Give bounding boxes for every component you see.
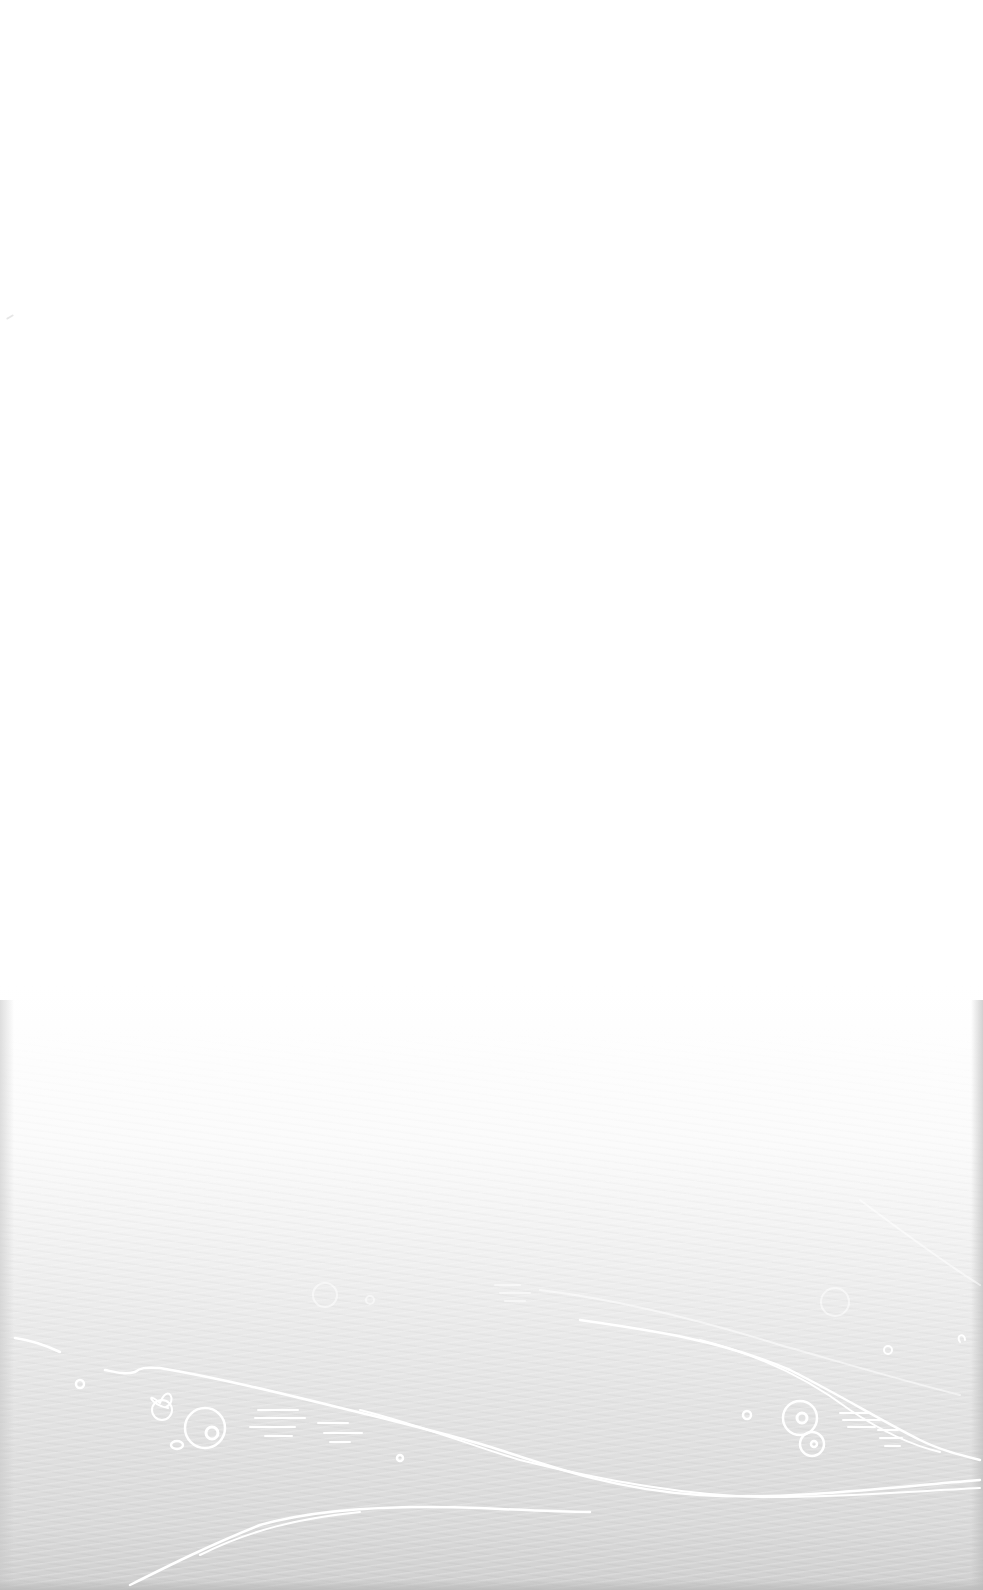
faint-wave-lines bbox=[313, 1200, 980, 1395]
right-wave-line-2 bbox=[700, 1340, 940, 1452]
background-screen bbox=[0, 0, 983, 1590]
bubbles-left bbox=[76, 1380, 403, 1461]
bottom-sweep-line bbox=[130, 1507, 590, 1585]
short-stroke-left bbox=[15, 1338, 60, 1352]
grain-texture bbox=[0, 1020, 983, 1590]
dash-marks-right bbox=[840, 1413, 902, 1446]
main-wave-line-2 bbox=[360, 1410, 980, 1497]
right-wave-line bbox=[580, 1320, 980, 1460]
bottom-sweep-line-2 bbox=[200, 1512, 360, 1555]
edge-shadow-bottom bbox=[0, 1580, 983, 1590]
edge-shadow-left bbox=[0, 1000, 14, 1590]
bubbles-right bbox=[743, 1335, 965, 1456]
dash-marks-left bbox=[250, 1410, 362, 1442]
edge-shadow-right bbox=[971, 1000, 983, 1590]
wave-doodle-illustration bbox=[0, 0, 983, 1590]
main-wave-line bbox=[105, 1368, 980, 1497]
stray-mark bbox=[6, 314, 14, 320]
